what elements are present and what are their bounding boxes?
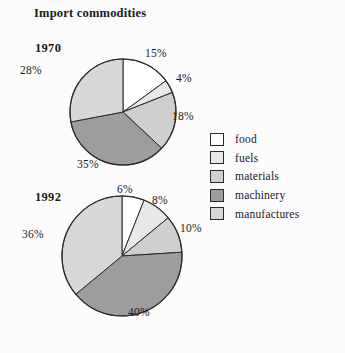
pie-1992-label-materials: 10% (180, 222, 202, 234)
legend-swatch-fuels (210, 151, 224, 164)
legend-item-machinery[interactable]: machinery (210, 186, 330, 205)
pie-1970-label-materials: 18% (172, 110, 194, 122)
legend-item-materials[interactable]: materials (210, 167, 330, 186)
pie-1992-label-food: 6% (117, 183, 133, 195)
pie-1992-label-fuels: 8% (152, 194, 168, 206)
legend: foodfuelsmaterialsmachinerymanufactures (210, 130, 330, 223)
legend-swatch-manufactures (210, 207, 224, 220)
pie-slice-manufactures[interactable] (70, 59, 123, 122)
pie-1970-label-food: 15% (145, 47, 167, 59)
pie-1970-label-machinery: 35% (77, 158, 99, 170)
pie-chart-1970 (70, 59, 176, 165)
legend-swatch-food (210, 133, 224, 146)
legend-label-machinery: machinery (235, 189, 285, 201)
pie-1970-label-fuels: 4% (176, 72, 192, 84)
legend-item-fuels[interactable]: fuels (210, 149, 330, 168)
legend-item-manufactures[interactable]: manufactures (210, 204, 330, 223)
pie-1992-label-machinery: 40% (128, 306, 150, 318)
pie-1970-label-manufactures: 28% (20, 64, 42, 76)
legend-swatch-materials (210, 170, 224, 183)
legend-label-materials: materials (235, 170, 279, 182)
legend-label-manufactures: manufactures (235, 208, 299, 220)
legend-item-food[interactable]: food (210, 130, 330, 149)
pie-1992-label-manufactures: 36% (22, 228, 44, 240)
import-commodities-figure: Import commodities 1970 1992 15% 4% 18% … (0, 0, 345, 353)
pie-chart-1992 (62, 196, 182, 316)
legend-swatch-machinery (210, 189, 224, 202)
legend-label-fuels: fuels (235, 152, 258, 164)
legend-label-food: food (235, 133, 257, 145)
